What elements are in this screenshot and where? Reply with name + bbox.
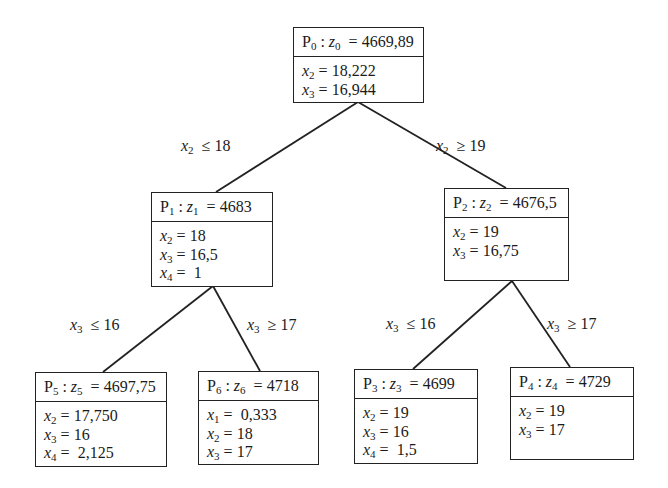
- var-row: x2=19: [363, 404, 477, 423]
- var-row: x3=16,75: [453, 242, 568, 261]
- edge-label-p2-p3: x3 ≤16: [386, 315, 435, 333]
- var-row: x2=17,750: [44, 407, 166, 426]
- node-header: P2 : z2 =4676,5: [445, 189, 568, 218]
- node-body: x2=18,222 x3=16,944: [294, 57, 423, 99]
- node-p4: P4 : z4 =4729 x2=19 x3=17: [510, 367, 634, 460]
- var-row: x3=16: [363, 423, 477, 442]
- node-p6: P6 : z6 =4718 x1= 0,333 x2=18 x3=17: [198, 371, 319, 465]
- node-header: P6 : z6 =4718: [199, 372, 318, 401]
- edge-label-p2-p4: x3 ≥17: [547, 315, 596, 333]
- node-header: P3 : z3 =4699: [355, 370, 477, 399]
- node-body: x1= 0,333 x2=18 x3=17: [199, 401, 318, 462]
- var-row: x1= 0,333: [207, 406, 318, 425]
- var-row: x4= 2,125: [44, 444, 166, 463]
- var-row: x2=18: [160, 227, 272, 246]
- node-body: x2=19 x3=17: [511, 397, 633, 439]
- var-row: x2=19: [519, 402, 633, 421]
- edge-line-p0-p1: [216, 102, 358, 192]
- var-row: x2=18,222: [302, 62, 423, 81]
- node-body: x2=17,750 x3=16 x4= 2,125: [36, 402, 166, 463]
- edge-label-p1-p6: x3 ≥17: [247, 316, 296, 334]
- edge-line-p1-p5: [103, 286, 213, 372]
- var-row: x2=18: [207, 425, 318, 444]
- var-row: x3=16,5: [160, 246, 272, 265]
- node-header: P4 : z4 =4729: [511, 368, 633, 397]
- var-row: x3=17: [519, 421, 633, 440]
- edge-label-p1-p5: x3 ≤16: [70, 316, 119, 334]
- node-p0: P0 : z0 =4669,89 x2=18,222 x3=16,944: [293, 27, 424, 103]
- node-header: P1 : z1 =4683: [152, 193, 272, 222]
- var-row: x3=16,944: [302, 81, 423, 100]
- edge-label-p0-p1: x2 ≤18: [181, 137, 230, 155]
- node-body: x2=18 x3=16,5 x4= 1: [152, 222, 272, 283]
- var-row: x3=17: [207, 443, 318, 462]
- var-row: x3=16: [44, 426, 166, 445]
- var-row: x4= 1: [160, 264, 272, 283]
- node-p5: P5 : z5 =4697,75 x2=17,750 x3=16 x4= 2,1…: [35, 372, 167, 467]
- node-body: x2=19 x3=16,75: [445, 218, 568, 260]
- node-header: P5 : z5 =4697,75: [36, 373, 166, 402]
- node-p1: P1 : z1 =4683 x2=18 x3=16,5 x4= 1: [151, 192, 273, 287]
- node-header: P0 : z0 =4669,89: [294, 28, 423, 57]
- var-row: x2=19: [453, 223, 568, 242]
- node-body: x2=19 x3=16 x4= 1,5: [355, 399, 477, 460]
- node-p2: P2 : z2 =4676,5 x2=19 x3=16,75: [444, 188, 569, 281]
- var-row: x4= 1,5: [363, 441, 477, 460]
- node-p3: P3 : z3 =4699 x2=19 x3=16 x4= 1,5: [354, 369, 478, 464]
- edge-label-p0-p2: x2 ≥19: [436, 137, 485, 155]
